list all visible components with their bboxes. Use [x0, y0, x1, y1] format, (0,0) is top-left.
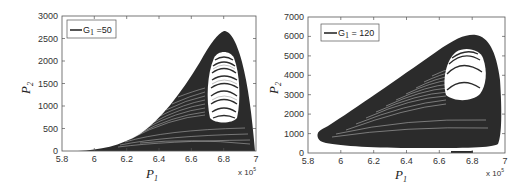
left-plot: 5.8 6 6.2 6.4 6.6 6.8 7 0 500 1000 1500 …: [0, 0, 266, 192]
y-tick-label: 4000: [284, 70, 304, 80]
y-tick-label: 2000: [284, 109, 304, 119]
right-x-multiplier: x 105: [486, 167, 504, 178]
y-tick-label: 7000: [284, 12, 304, 22]
x-tick-label: 7: [502, 156, 507, 166]
y-tick-label: 5000: [284, 51, 304, 61]
right-plot-canvas: 5.8 6 6.2 6.4 6.6 6.8 7 0 1000 2000 3000…: [266, 0, 532, 192]
x-tick-label: 6: [338, 156, 343, 166]
x-tick-label: 6.2: [120, 154, 133, 164]
y-tick-label: 0: [299, 148, 304, 158]
x-tick-label: 6.4: [400, 156, 413, 166]
right-y-axis-label: P2: [266, 82, 283, 95]
y-tick-label: 2500: [38, 34, 58, 44]
x-tick-label: 6.6: [433, 156, 446, 166]
y-tick-label: 6000: [284, 31, 304, 41]
y-tick-label: 3000: [284, 90, 304, 100]
right-legend: G1 = 120: [321, 24, 379, 41]
left-y-tick-labels: 0 500 1000 1500 2000 2500 3000: [38, 11, 58, 156]
x-tick-label: 6: [92, 154, 97, 164]
right-plot: 5.8 6 6.2 6.4 6.6 6.8 7 0 1000 2000 3000…: [266, 0, 532, 192]
left-x-axis-label: P1: [145, 166, 158, 183]
y-tick-label: 3000: [38, 11, 58, 21]
x-tick-label: 7: [253, 154, 258, 164]
y-tick-label: 2000: [38, 56, 58, 66]
x-tick-label: 6.4: [153, 154, 166, 164]
right-attractor: [317, 35, 501, 153]
left-attractor: [78, 31, 255, 151]
left-x-multiplier: x 105: [238, 166, 256, 177]
x-tick-label: 6.8: [466, 156, 479, 166]
y-tick-label: 1500: [38, 79, 58, 89]
right-x-tick-labels: 5.8 6 6.2 6.4 6.6 6.8 7: [302, 156, 508, 166]
y-tick-label: 1000: [284, 129, 304, 139]
x-tick-label: 6.8: [217, 154, 230, 164]
left-plot-canvas: 5.8 6 6.2 6.4 6.6 6.8 7 0 500 1000 1500 …: [0, 0, 266, 192]
y-tick-label: 0: [53, 146, 58, 156]
left-x-tick-labels: 5.8 6 6.2 6.4 6.6 6.8 7: [56, 154, 259, 164]
x-tick-label: 6.2: [367, 156, 380, 166]
right-x-axis-label: P1: [394, 167, 407, 184]
left-y-axis-label: P2: [18, 82, 35, 95]
right-y-tick-labels: 0 1000 2000 3000 4000 5000 6000 7000: [284, 12, 304, 158]
left-legend: G1 =50: [67, 20, 116, 38]
x-tick-label: 6.6: [185, 154, 198, 164]
y-tick-label: 500: [43, 124, 58, 134]
y-tick-label: 1000: [38, 101, 58, 111]
